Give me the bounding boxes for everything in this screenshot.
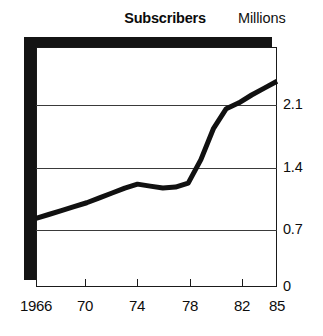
chart-figure: Subscribers Millions 2.11.40.70 19667074… [0,0,323,336]
x-tick-label-0: 1966 [12,297,60,314]
x-tick-1 [137,279,138,287]
x-tick-0 [85,279,86,287]
x-tick-label-3: 78 [175,297,205,314]
y-tick-label-0: 2.1 [283,96,303,112]
y-tick-label-3: 0 [283,278,291,294]
x-tick-label-5: 85 [262,297,292,314]
y-tick-label-2: 0.7 [283,221,303,237]
y-tick-label-1: 1.4 [283,159,303,175]
x-tick-label-4: 82 [227,297,257,314]
series-subscribers [36,47,277,287]
x-tick-label-2: 74 [122,297,152,314]
x-tick-label-1: 70 [70,297,100,314]
x-tick-3 [242,279,243,287]
chart-title: Subscribers [100,10,230,26]
x-tick-2 [190,279,191,287]
chart-units-label: Millions [238,10,286,26]
series-line-subscribers [36,81,277,218]
